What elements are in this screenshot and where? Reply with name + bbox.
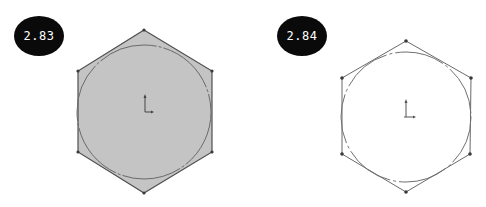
shaded-hexagon-group [76,28,213,194]
origin-axes-icon [404,99,416,119]
outline-hexagon-group [340,39,473,194]
drawing-canvas [0,0,486,207]
